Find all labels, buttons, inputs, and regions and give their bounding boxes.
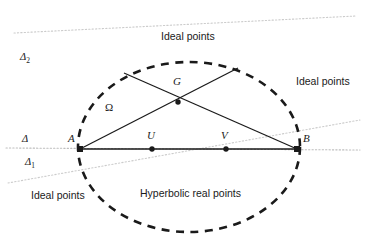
ideal-line-delta1 [8, 120, 360, 183]
point-label-b: B [303, 133, 310, 144]
point-label-u: U [147, 130, 155, 141]
point-label-g: G [173, 76, 181, 87]
point-marker-a [77, 146, 83, 152]
point-marker-v [223, 146, 228, 151]
point-marker-g [175, 99, 180, 104]
hyperbolic-plane-diagram: A B U V G Ω Δ Δ1 Δ2 Ideal points Ideal p… [0, 0, 368, 250]
annotation-ideal-points-top: Ideal points [161, 31, 215, 42]
chord-a-upper-right [80, 68, 238, 149]
conic-label-omega: Ω [105, 102, 113, 113]
line-label-delta-1: Δ1 [25, 157, 35, 170]
line-label-delta-2: Δ2 [20, 52, 30, 65]
point-marker-u [149, 146, 154, 151]
annotation-hyperbolic-real-points: Hyperbolic real points [140, 188, 241, 199]
line-label-delta: Δ [22, 134, 28, 147]
annotation-ideal-points-right: Ideal points [296, 76, 350, 87]
point-label-a: A [68, 133, 75, 144]
point-marker-b [294, 146, 300, 152]
annotation-ideal-points-bottom: Ideal points [31, 190, 85, 201]
point-label-v: V [221, 130, 228, 141]
absolute-conic-omega [78, 62, 300, 232]
